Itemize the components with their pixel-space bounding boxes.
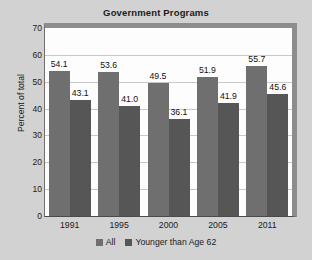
y-tick-label: 60 (8, 51, 42, 59)
y-axis-ticks: 010203040506070 (4, 0, 42, 260)
y-tick-label: 20 (8, 158, 42, 166)
bar-value-label: 51.9 (192, 66, 223, 75)
bar-2005-younger (218, 103, 239, 216)
x-tick-label-2000: 2000 (144, 220, 193, 230)
legend-swatch-icon (96, 239, 103, 246)
chart-legend: AllYounger than Age 62 (0, 236, 312, 247)
bar-value-label: 41.0 (114, 95, 145, 104)
chart-figure: Government Programs Percent of total 010… (0, 0, 312, 260)
bar-1991-younger (70, 100, 91, 216)
y-tick-label: 0 (8, 212, 42, 220)
legend-item-younger-than-age-62[interactable]: Younger than Age 62 (125, 237, 216, 247)
chart-title: Government Programs (0, 7, 312, 18)
x-tick-label-1995: 1995 (94, 220, 143, 230)
bar-1995-younger (119, 106, 140, 216)
bar-2000-all (148, 83, 169, 216)
bar-2011-younger (267, 94, 288, 216)
bar-1995-all (98, 72, 119, 216)
bar-value-label: 54.1 (44, 60, 75, 69)
y-tick-label: 40 (8, 105, 42, 113)
bar-value-label: 45.6 (262, 83, 293, 92)
bar-value-label: 49.5 (143, 72, 174, 81)
legend-swatch-icon (125, 239, 132, 246)
bar-2000-younger (169, 119, 190, 216)
bar-value-label: 41.9 (213, 92, 244, 101)
bar-value-label: 55.7 (241, 55, 272, 64)
legend-label: Younger than Age 62 (135, 237, 216, 247)
bar-value-label: 43.1 (65, 89, 96, 98)
y-tick-label: 50 (8, 78, 42, 86)
bar-value-label: 53.6 (93, 61, 124, 70)
y-tick-label: 10 (8, 185, 42, 193)
bar-value-label: 36.1 (164, 108, 195, 117)
x-tick-label-2011: 2011 (243, 220, 292, 230)
legend-label: All (106, 237, 116, 247)
y-tick-label: 70 (8, 24, 42, 32)
y-tick-label: 30 (8, 131, 42, 139)
x-tick-label-1991: 1991 (45, 220, 94, 230)
legend-item-all[interactable]: All (96, 237, 116, 247)
x-tick-label-2005: 2005 (193, 220, 242, 230)
